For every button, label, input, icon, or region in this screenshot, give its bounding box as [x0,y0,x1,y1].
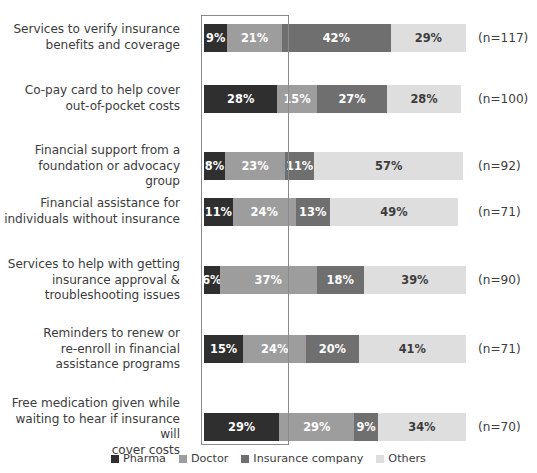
bar-segment-insurance-company[interactable]: 27% [317,85,388,113]
bar-track: 11%24%13%49% [204,198,466,226]
bar-track: 29%29%9%34% [204,413,466,441]
bar-segment-insurance-company[interactable]: 11% [285,152,314,180]
stacked-bar-chart: Services to verify insurance benefits an… [0,0,537,473]
category-label: Free medication given while waiting to h… [0,396,192,458]
bar-segment-doctor[interactable]: 15% [277,85,316,113]
chart-row: Services to verify insurance benefits an… [0,22,537,53]
stacked-bar: 28%15%27%28% [204,85,466,113]
sample-size-label: (n=90) [478,273,521,287]
bar-segment-pharma[interactable]: 9% [204,24,227,52]
stacked-bar: 29%29%9%34% [204,413,466,441]
bar-segment-others[interactable]: 29% [391,24,466,52]
bar-segment-others[interactable]: 34% [378,413,466,441]
bar-segment-doctor[interactable]: 24% [243,335,306,363]
chart-plot-area: Services to verify insurance benefits an… [0,0,537,440]
bar-segment-insurance-company[interactable]: 42% [282,24,391,52]
stacked-bar: 9%21%42%29% [204,24,466,52]
sample-size-label: (n=117) [478,31,528,45]
bar-segment-pharma[interactable]: 6% [204,266,220,294]
bar-segment-insurance-company[interactable]: 9% [354,413,377,441]
bar-track: 15%24%20%41% [204,335,466,363]
bar-track: 6%37%18%39% [204,266,466,294]
legend-label: Doctor [191,452,228,465]
bar-segment-others[interactable]: 28% [387,85,460,113]
category-label: Financial assistance for individuals wit… [0,196,192,227]
stacked-bar: 15%24%20%41% [204,335,466,363]
legend-item[interactable]: Doctor [179,452,228,465]
chart-row: Financial assistance for individuals wit… [0,196,537,227]
sample-size-label: (n=70) [478,420,521,434]
legend-swatch-icon [376,455,384,463]
legend-label: Pharma [123,452,166,465]
legend-item[interactable]: Insurance company [241,452,363,465]
bar-segment-others[interactable]: 39% [364,266,466,294]
chart-row: Services to help with getting insurance … [0,257,537,304]
bar-segment-doctor[interactable]: 37% [220,266,317,294]
bar-segment-insurance-company[interactable]: 13% [296,198,330,226]
sample-size-label: (n=100) [478,92,528,106]
bar-segment-doctor[interactable]: 29% [279,413,354,441]
stacked-bar: 8%23%11%57% [204,152,466,180]
legend-swatch-icon [111,455,119,463]
bar-segment-insurance-company[interactable]: 20% [306,335,358,363]
category-label: Reminders to renew or re-enroll in finan… [0,326,192,373]
category-label: Co-pay card to help cover out-of-pocket … [0,83,192,114]
bar-segment-doctor[interactable]: 24% [233,198,296,226]
legend-item[interactable]: Others [376,452,426,465]
bar-track: 9%21%42%29% [204,24,466,52]
bar-segment-others[interactable]: 49% [330,198,458,226]
sample-size-label: (n=71) [478,205,521,219]
chart-row: Financial support from a foundation or a… [0,143,537,190]
chart-row: Free medication given while waiting to h… [0,396,537,458]
legend-label: Insurance company [253,452,363,465]
chart-legend: PharmaDoctorInsurance companyOthers [0,452,537,465]
legend-swatch-icon [179,455,187,463]
bar-segment-pharma[interactable]: 15% [204,335,243,363]
stacked-bar: 6%37%18%39% [204,266,466,294]
bar-segment-pharma[interactable]: 29% [204,413,279,441]
bar-segment-others[interactable]: 57% [314,152,463,180]
legend-item[interactable]: Pharma [111,452,166,465]
stacked-bar: 11%24%13%49% [204,198,466,226]
legend-swatch-icon [241,455,249,463]
bar-segment-pharma[interactable]: 11% [204,198,233,226]
bar-track: 28%15%27%28% [204,85,466,113]
chart-row: Co-pay card to help cover out-of-pocket … [0,83,537,114]
bar-segment-insurance-company[interactable]: 18% [317,266,364,294]
sample-size-label: (n=71) [478,342,521,356]
legend-label: Others [388,452,426,465]
bar-track: 8%23%11%57% [204,152,466,180]
bar-segment-pharma[interactable]: 28% [204,85,277,113]
category-label: Services to verify insurance benefits an… [0,22,192,53]
bar-segment-pharma[interactable]: 8% [204,152,225,180]
bar-segment-others[interactable]: 41% [359,335,466,363]
category-label: Financial support from a foundation or a… [0,143,192,190]
chart-row: Reminders to renew or re-enroll in finan… [0,326,537,373]
category-label: Services to help with getting insurance … [0,257,192,304]
bar-segment-doctor[interactable]: 23% [225,152,285,180]
bar-segment-doctor[interactable]: 21% [227,24,281,52]
sample-size-label: (n=92) [478,159,521,173]
